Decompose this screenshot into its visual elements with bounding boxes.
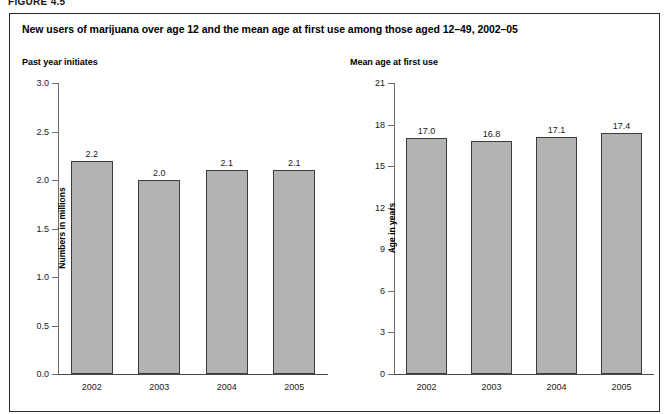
y-tick-label: 12 <box>375 203 385 213</box>
figure-frame: New users of marijuana over age 12 and t… <box>9 13 660 412</box>
y-axis-title-right: Age in years <box>387 168 397 288</box>
bar-value-label: 17.1 <box>548 125 566 135</box>
y-tick-label: 0.0 <box>36 369 49 379</box>
bar-value-label: 17.0 <box>418 126 436 136</box>
y-tick-label: 18 <box>375 120 385 130</box>
x-axis-line-right <box>394 374 654 375</box>
bar-2003[interactable]: 16.82003 <box>471 141 511 374</box>
y-tick-mark <box>388 166 394 167</box>
y-tick-label: 3.0 <box>36 78 49 88</box>
y-tick-mark <box>52 374 58 375</box>
y-tick-mark <box>388 291 394 292</box>
bar-value-label: 2.0 <box>153 168 166 178</box>
chart-panel-mean-age-at-first-use: Mean age at first use 211815129630 Age i… <box>350 57 650 402</box>
y-tick-label: 21 <box>375 78 385 88</box>
bar-2004[interactable]: 17.12004 <box>536 137 576 374</box>
bar-value-label: 16.8 <box>483 129 501 139</box>
x-tick-label: 2002 <box>82 382 102 392</box>
x-tick-label: 2003 <box>149 382 169 392</box>
y-tick-label: 3 <box>380 327 385 337</box>
y-tick-mark <box>52 132 58 133</box>
bar-value-label: 2.1 <box>220 158 233 168</box>
bar-2005[interactable]: 17.42005 <box>601 133 641 374</box>
x-tick-label: 2005 <box>284 382 304 392</box>
plot-area-left: 3.02.52.01.51.00.50.0 Numbers in million… <box>58 83 328 374</box>
y-tick-label: 9 <box>380 244 385 254</box>
x-tick-label: 2002 <box>416 382 436 392</box>
y-tick-label: 15 <box>375 161 385 171</box>
y-tick-label: 2.0 <box>36 175 49 185</box>
chart-title-right: Mean age at first use <box>350 57 438 67</box>
x-tick-label: 2004 <box>546 382 566 392</box>
bar-value-label: 2.2 <box>85 149 98 159</box>
bar-value-label: 17.4 <box>613 121 631 131</box>
bar-2005[interactable]: 2.12005 <box>273 170 315 374</box>
figure-label: FIGURE 4.5 <box>8 0 65 8</box>
figure-title: New users of marijuana over age 12 and t… <box>22 23 518 35</box>
x-tick-label: 2003 <box>481 382 501 392</box>
bar-value-label: 2.1 <box>288 158 301 168</box>
y-tick-mark <box>388 83 394 84</box>
x-tick-label: 2005 <box>611 382 631 392</box>
y-tick-label: 1.5 <box>36 224 49 234</box>
y-tick-label: 1.0 <box>36 272 49 282</box>
x-tick-label: 2004 <box>217 382 237 392</box>
y-tick-label: 0 <box>380 369 385 379</box>
chart-title-left: Past year initiates <box>22 57 98 67</box>
y-tick-label: 6 <box>380 286 385 296</box>
bar-2002[interactable]: 2.22002 <box>71 161 113 374</box>
bar-2002[interactable]: 17.02002 <box>406 138 446 374</box>
y-axis-title-left: Numbers in millions <box>57 168 67 288</box>
plot-area-right: 211815129630 Age in years 17.0200216.820… <box>394 83 654 374</box>
y-tick-mark <box>52 83 58 84</box>
x-axis-line-left <box>58 374 328 375</box>
y-tick-mark <box>388 125 394 126</box>
y-tick-label: 0.5 <box>36 321 49 331</box>
y-tick-label: 2.5 <box>36 127 49 137</box>
chart-panel-past-year-initiates: Past year initiates 3.02.52.01.51.00.50.… <box>22 57 342 402</box>
y-tick-mark <box>388 332 394 333</box>
y-tick-mark <box>52 326 58 327</box>
bar-2003[interactable]: 2.02003 <box>138 180 180 374</box>
bar-2004[interactable]: 2.12004 <box>206 170 248 374</box>
y-tick-mark <box>388 374 394 375</box>
